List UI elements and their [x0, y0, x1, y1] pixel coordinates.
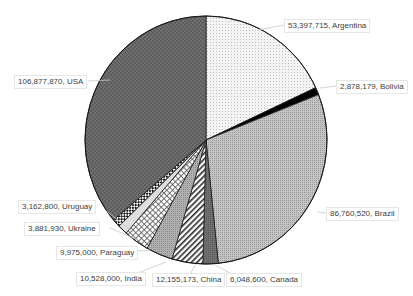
label-india: 10,528,000, India	[76, 272, 146, 286]
label-argentina: 53,397,715, Argentina	[284, 19, 370, 33]
leader-line	[320, 86, 336, 88]
leader-line	[258, 25, 284, 30]
label-usa: 106,877,870, USA	[14, 75, 87, 89]
label-brazil: 86,760,520, Brazil	[326, 207, 399, 221]
leader-line	[318, 212, 326, 213]
label-uruguay: 3,162,800, Uruguay	[18, 200, 96, 214]
label-china: 12,155,173, China	[152, 273, 225, 287]
label-ukraine: 3,881,930, Ukraine	[24, 222, 100, 236]
label-bolivia: 2,878,179, Bolivia	[336, 80, 408, 94]
label-canada: 6,048,600, Canada	[226, 273, 302, 287]
pie-slices	[85, 16, 327, 264]
label-paraguay: 9,975,000, Paraguay	[56, 246, 138, 260]
